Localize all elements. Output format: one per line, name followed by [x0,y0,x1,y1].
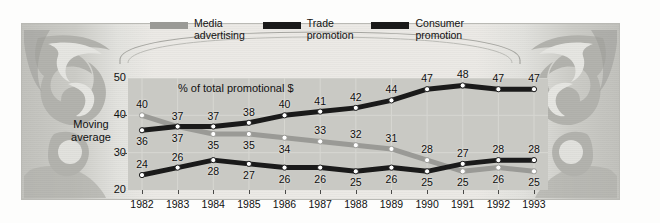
chart-legend: Media advertisingTrade promotionConsumer… [150,18,480,48]
data-point[interactable] [139,128,144,133]
y-tick-label: 40 [100,108,126,120]
data-point[interactable] [282,113,287,118]
data-point[interactable] [389,98,394,103]
data-point[interactable] [318,109,323,114]
x-tick-mark [249,190,250,194]
data-point[interactable] [460,83,465,88]
data-point[interactable] [496,165,501,170]
data-point[interactable] [424,169,429,174]
x-tick-mark [356,190,357,194]
legend-swatch-media-advertising [150,22,188,29]
legend-label-consumer-promotion: Consumer promotion [415,18,463,41]
data-point[interactable] [460,161,465,166]
x-tick-label: 1991 [443,198,483,210]
data-point[interactable] [211,131,216,136]
y-tick-mark [122,153,127,154]
data-point[interactable] [353,169,358,174]
data-point[interactable] [246,161,251,166]
x-tick-mark [391,190,392,194]
y-tick-label: 20 [100,183,126,195]
data-point[interactable] [318,165,323,170]
x-tick-label: 1985 [229,198,269,210]
data-point[interactable] [246,120,251,125]
data-point[interactable] [211,124,216,129]
data-point[interactable] [139,172,144,177]
x-axis: 1982198319841985198619871988198919901991… [128,190,548,212]
x-tick-label: 1989 [371,198,411,210]
y-axis: 20304050 [92,70,126,198]
legend-swatch-consumer-promotion [371,22,409,29]
x-tick-label: 1983 [158,198,198,210]
x-tick-label: 1990 [407,198,447,210]
legend-item-media-advertising[interactable]: Media advertising [150,18,245,41]
y-tick-label: 50 [100,71,126,83]
data-point[interactable] [211,158,216,163]
x-tick-label: 1988 [336,198,376,210]
x-tick-label: 1984 [193,198,233,210]
x-tick-label: 1992 [478,198,518,210]
y-tick-mark [122,115,127,116]
data-point[interactable] [389,146,394,151]
data-point[interactable] [424,87,429,92]
x-tick-mark [285,190,286,194]
legend-item-trade-promotion[interactable]: Trade promotion [263,18,354,41]
data-point[interactable] [282,135,287,140]
data-point[interactable] [318,139,323,144]
legend-label-trade-promotion: Trade promotion [307,18,354,41]
data-point[interactable] [139,113,144,118]
legend-swatch-trade-promotion [263,22,301,29]
series-trade-promotion [139,83,536,133]
x-tick-label: 1982 [122,198,162,210]
x-tick-mark [534,190,535,194]
y-tick-label: 30 [100,146,126,158]
x-tick-label: 1993 [514,198,554,210]
data-point[interactable] [175,165,180,170]
x-tick-label: 1987 [300,198,340,210]
x-tick-label: 1986 [265,198,305,210]
data-point[interactable] [246,131,251,136]
data-point[interactable] [175,124,180,129]
data-point[interactable] [282,165,287,170]
data-point[interactable] [531,87,536,92]
x-tick-mark [463,190,464,194]
x-tick-mark [213,190,214,194]
legend-item-consumer-promotion[interactable]: Consumer promotion [371,18,463,41]
data-point[interactable] [389,165,394,170]
data-point[interactable] [460,169,465,174]
data-point[interactable] [353,143,358,148]
x-tick-mark [178,190,179,194]
data-point[interactable] [531,169,536,174]
data-point[interactable] [496,87,501,92]
x-tick-mark [142,190,143,194]
x-tick-mark [427,190,428,194]
legend-label-media-advertising: Media advertising [194,18,245,41]
data-point[interactable] [424,158,429,163]
chart-figure: Media advertisingTrade promotionConsumer… [0,0,660,223]
series-layer [128,78,548,190]
data-point[interactable] [353,105,358,110]
data-point[interactable] [496,158,501,163]
data-point[interactable] [531,158,536,163]
x-tick-mark [498,190,499,194]
x-tick-mark [320,190,321,194]
